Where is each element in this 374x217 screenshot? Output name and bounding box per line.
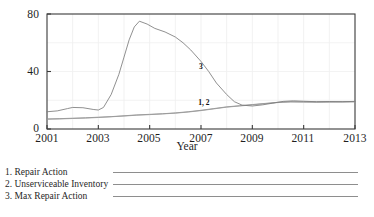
legend-item-repair-action: 1. Repair Action [0, 166, 374, 178]
legend-item-unserviceable-inventory: 2. Unserviceable Inventory [0, 178, 374, 190]
legend-line-sample-3 [113, 196, 358, 197]
series-1-2-annotation: 1, 2 [198, 98, 209, 107]
legend-label-1: 1. Repair Action [0, 166, 68, 178]
legend-label-2: 2. Unserviceable Inventory [0, 178, 108, 190]
legend-line-sample-1 [113, 172, 358, 173]
legend-label-3: 3. Max Repair Action [0, 190, 87, 202]
y-axis-tick-label-80: 80 [11, 9, 39, 21]
legend-item-max-repair-action: 3. Max Repair Action [0, 190, 374, 202]
figure-container: 80 40 0 2001 2003 2005 2007 2009 2011 20… [0, 0, 374, 217]
series-3-annotation: 3 [199, 62, 203, 71]
chart-area: 80 40 0 2001 2003 2005 2007 2009 2011 20… [0, 0, 374, 160]
caption-partial-line [5, 208, 369, 217]
y-axis-tick-label-40: 40 [11, 66, 39, 78]
legend-line-sample-2 [113, 184, 358, 185]
x-axis-tick-marks [47, 125, 355, 129]
chart-legend: 1. Repair Action 2. Unserviceable Invent… [0, 166, 374, 202]
x-axis-title: Year [0, 140, 374, 152]
